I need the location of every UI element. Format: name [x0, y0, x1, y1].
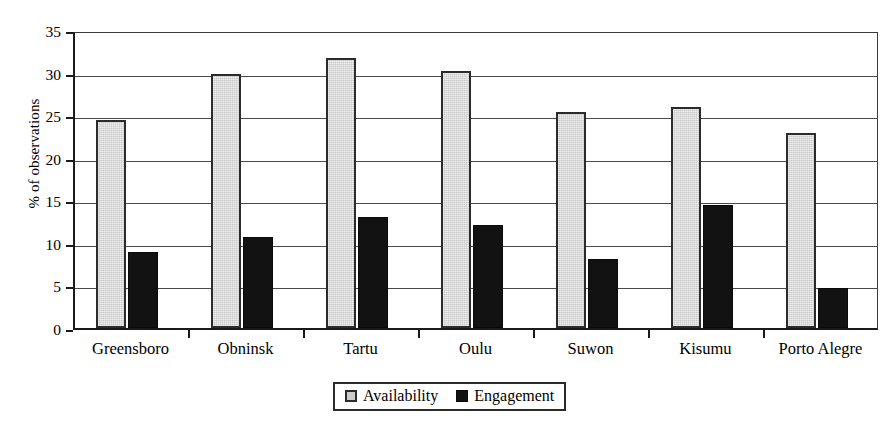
bar-availability	[671, 107, 701, 328]
y-tick-label: 10	[15, 237, 61, 253]
y-tick-mark	[66, 75, 73, 77]
bar-engagement	[358, 217, 388, 328]
bar-engagement	[243, 237, 273, 328]
y-tick-mark	[66, 117, 73, 119]
x-tick-mark	[418, 330, 420, 338]
y-tick-mark	[66, 32, 73, 34]
legend-label: Availability	[363, 387, 438, 405]
x-tick-mark	[648, 330, 650, 338]
legend-item: Engagement	[456, 387, 554, 405]
bar-engagement	[473, 225, 503, 328]
y-tick-label: 5	[15, 279, 61, 295]
bar-availability	[96, 120, 126, 328]
bar-group-container	[75, 33, 877, 328]
y-tick-label: 20	[15, 152, 61, 168]
bar-availability	[556, 112, 586, 328]
plot-area	[73, 32, 878, 330]
bar-availability	[441, 71, 471, 328]
legend-item: Availability	[345, 387, 438, 405]
bar-availability	[786, 133, 816, 328]
bar-engagement	[703, 205, 733, 328]
y-tick-label: 15	[15, 194, 61, 210]
y-tick-mark	[66, 330, 73, 332]
y-tick-mark	[66, 245, 73, 247]
bar-availability	[211, 74, 241, 328]
bar-engagement	[588, 259, 618, 328]
x-tick-mark	[303, 330, 305, 338]
y-tick-mark	[66, 202, 73, 204]
x-tick-mark	[188, 330, 190, 338]
bar-availability	[326, 58, 356, 328]
x-tick-label: Porto Alegre	[741, 340, 891, 358]
gray-square-icon	[345, 390, 357, 402]
y-tick-mark	[66, 287, 73, 289]
chart-legend: AvailabilityEngagement	[333, 382, 566, 411]
x-tick-mark	[533, 330, 535, 338]
y-tick-mark	[66, 160, 73, 162]
y-tick-label: 25	[15, 109, 61, 125]
black-square-icon	[456, 390, 468, 402]
y-tick-label: 0	[15, 322, 61, 338]
y-tick-label: 35	[15, 24, 61, 40]
y-tick-label: 30	[15, 67, 61, 83]
bar-chart: % of observations 05101520253035 Greensb…	[0, 0, 891, 430]
legend-label: Engagement	[474, 387, 554, 405]
bar-engagement	[818, 288, 848, 328]
bar-engagement	[128, 252, 158, 328]
x-tick-mark	[763, 330, 765, 338]
